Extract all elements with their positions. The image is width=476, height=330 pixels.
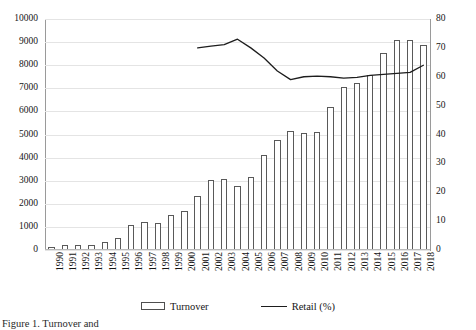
bar-2009	[301, 133, 307, 250]
y-tick-left: 5000	[0, 130, 38, 140]
bar-2007	[274, 140, 280, 250]
x-tick-1991: 1991	[69, 252, 79, 271]
x-tick-2004: 2004	[242, 252, 252, 271]
x-tick-2009: 2009	[308, 252, 318, 271]
bar-2013	[354, 83, 360, 250]
bar-2016	[394, 40, 400, 250]
x-tick-2000: 2000	[188, 252, 198, 271]
bar-2000	[181, 211, 187, 250]
y-tick-left: 8000	[0, 60, 38, 70]
y-tick-left: 1000	[0, 222, 38, 232]
bar-2017	[407, 40, 413, 250]
x-tick-1998: 1998	[162, 252, 172, 271]
bar-swatch-icon	[141, 302, 165, 310]
x-tick-1993: 1993	[95, 252, 105, 271]
x-tick-1995: 1995	[122, 252, 132, 271]
legend-label-retail: Retail (%)	[292, 301, 335, 312]
figure-caption: Figure 1. Turnover and	[2, 318, 472, 330]
bar-1998	[155, 223, 161, 250]
legend-item-turnover: Turnover	[141, 301, 209, 312]
bar-2002	[208, 180, 214, 250]
y-tick-right: 70	[436, 43, 466, 53]
y-tick-right: 50	[436, 101, 466, 111]
y-tick-right: 0	[436, 245, 466, 255]
x-tick-1994: 1994	[109, 252, 119, 271]
x-tick-2011: 2011	[334, 252, 344, 271]
x-tick-1990: 1990	[56, 252, 66, 271]
y-tick-right: 80	[436, 14, 466, 24]
x-tick-2005: 2005	[255, 252, 265, 271]
x-tick-1996: 1996	[135, 252, 145, 271]
plot-area	[45, 19, 430, 250]
bar-1999	[168, 215, 174, 250]
legend-label-turnover: Turnover	[170, 301, 209, 312]
x-tick-2002: 2002	[215, 252, 225, 271]
figure-chart: 0100020003000400050006000700080009000100…	[0, 0, 476, 330]
line-swatch-icon	[261, 306, 287, 307]
x-tick-2013: 2013	[361, 252, 371, 271]
x-tick-2015: 2015	[388, 252, 398, 271]
bar-series-turnover	[45, 19, 430, 250]
axis-baseline	[45, 249, 430, 250]
x-tick-2006: 2006	[268, 252, 278, 271]
x-tick-2010: 2010	[321, 252, 331, 271]
y-tick-left: 6000	[0, 106, 38, 116]
axis-line-right	[430, 19, 431, 251]
x-tick-2007: 2007	[281, 252, 291, 271]
y-tick-right: 20	[436, 187, 466, 197]
legend-item-retail: Retail (%)	[261, 301, 335, 312]
bar-2001	[194, 196, 200, 250]
bar-2004	[234, 186, 240, 250]
x-axis-labels: 1990199119921993199419951996199719981999…	[45, 252, 430, 298]
y-tick-right: 40	[436, 130, 466, 140]
x-tick-1999: 1999	[175, 252, 185, 271]
bar-2018	[420, 45, 426, 250]
bar-2014	[367, 75, 373, 250]
chart-legend: Turnover Retail (%)	[0, 298, 476, 314]
y-tick-right: 10	[436, 216, 466, 226]
x-tick-2014: 2014	[374, 252, 384, 271]
bar-2008	[287, 131, 293, 250]
y-tick-right: 30	[436, 158, 466, 168]
x-tick-2001: 2001	[202, 252, 212, 271]
y-tick-left: 2000	[0, 199, 38, 209]
y-tick-left: 10000	[0, 14, 38, 24]
y-tick-right: 60	[436, 72, 466, 82]
bar-2006	[261, 155, 267, 250]
y-tick-left: 7000	[0, 83, 38, 93]
x-tick-2008: 2008	[295, 252, 305, 271]
x-tick-2016: 2016	[401, 252, 411, 271]
bar-2003	[221, 179, 227, 250]
bar-2005	[248, 177, 254, 250]
x-tick-2018: 2018	[427, 252, 437, 271]
bar-2015	[380, 53, 386, 250]
bar-2010	[314, 132, 320, 250]
bar-1996	[128, 225, 134, 250]
x-tick-2017: 2017	[414, 252, 424, 271]
x-tick-2003: 2003	[228, 252, 238, 271]
y-tick-left: 4000	[0, 153, 38, 163]
y-tick-left: 9000	[0, 37, 38, 47]
bar-2012	[341, 87, 347, 250]
x-tick-2012: 2012	[348, 252, 358, 271]
x-tick-1997: 1997	[149, 252, 159, 271]
gridline	[45, 250, 430, 251]
y-tick-left: 3000	[0, 176, 38, 186]
bar-1997	[141, 222, 147, 250]
bar-2011	[327, 107, 333, 250]
y-tick-left: 0	[0, 245, 38, 255]
x-tick-1992: 1992	[82, 252, 92, 271]
